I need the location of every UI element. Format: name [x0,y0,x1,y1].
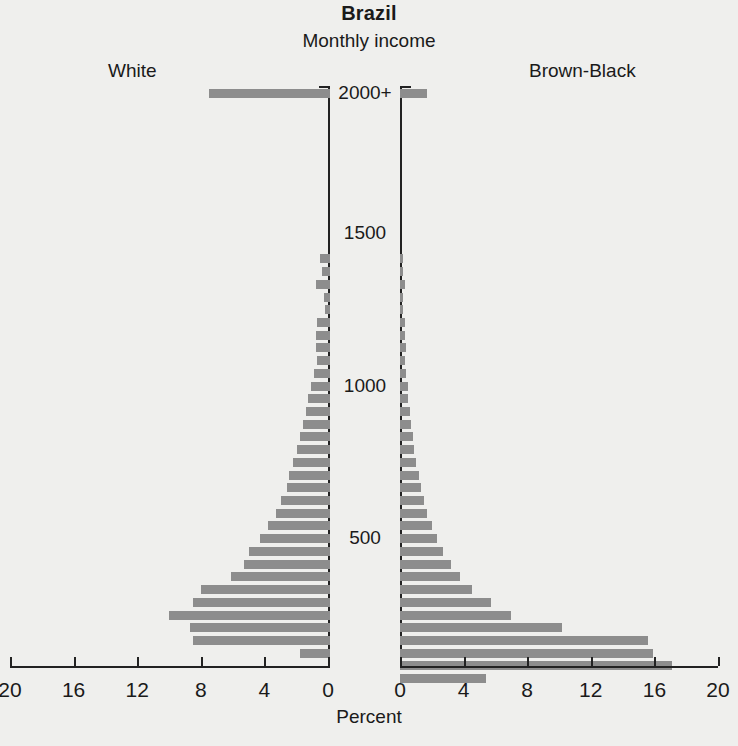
left-bar [249,547,330,556]
bar-row [400,534,718,543]
left-bar [289,471,330,480]
left-bar [303,420,330,429]
bar-row [10,611,330,620]
left-bar [314,369,330,378]
right-bar [400,420,411,429]
left-bar [316,343,330,352]
bar-row [10,382,330,391]
bar-row [10,636,330,645]
left-bar [231,572,330,581]
right-bar [400,254,403,263]
bar-row [400,280,718,289]
bar-row [400,254,718,263]
x-tick-mark [464,657,466,666]
bar-row [400,369,718,378]
left-bar [201,585,330,594]
bar-row [10,305,330,314]
right-x-tick-label: 20 [698,678,738,702]
left-bar [281,496,330,505]
x-tick-mark [718,657,720,666]
right-bar [400,267,403,276]
right-bar [400,585,472,594]
bar-row [400,318,718,327]
bar-row [400,89,718,98]
left-bar [244,560,330,569]
x-axis-title: Percent [0,706,738,728]
right-bar [400,471,419,480]
right-bar [400,343,406,352]
right-bar [400,483,421,492]
right-group-label: Brown-Black [529,60,636,82]
x-tick-mark [264,657,266,666]
income-tick-label: 2000+ [330,83,400,102]
bar-row [10,318,330,327]
left-bar [287,483,330,492]
bar-row [400,598,718,607]
bar-row [400,471,718,480]
right-bar [400,572,460,581]
left-bar [268,521,330,530]
left-bar [276,509,330,518]
bar-row [400,407,718,416]
bar-row [400,305,718,314]
bar-row [10,496,330,505]
bar-row [10,394,330,403]
bar-row [10,420,330,429]
left-panel-white [10,86,330,666]
right-x-tick-label: 8 [507,678,547,702]
x-tick-mark [74,657,76,666]
bar-row [400,547,718,556]
chart-subtitle: Monthly income [0,30,738,52]
left-x-tick-label: 20 [0,678,30,702]
right-horizontal-axis [400,666,718,668]
left-bar [260,534,330,543]
bar-row [10,572,330,581]
right-bar [400,382,408,391]
right-bar [400,305,403,314]
left-x-tick-label: 8 [181,678,221,702]
x-tick-mark [400,657,402,666]
bar-row [400,293,718,302]
right-bar [400,394,408,403]
bar-row [10,280,330,289]
bar-row [10,649,330,658]
bar-row [10,432,330,441]
bar-row [10,471,330,480]
left-x-tick-label: 0 [308,678,348,702]
x-tick-mark [201,657,203,666]
bar-row [10,598,330,607]
right-x-tick-label: 4 [444,678,484,702]
x-tick-mark [137,657,139,666]
bar-row [10,89,330,98]
left-bar [209,89,330,98]
income-scale: 2000+15001000500 [330,86,400,666]
right-bar [400,407,410,416]
right-panel-brown-black [400,86,718,666]
bar-row [10,623,330,632]
right-bar [400,496,424,505]
right-x-tick-label: 0 [380,678,420,702]
right-bar [400,598,491,607]
bar-row [10,458,330,467]
right-bar [400,331,405,340]
right-bar [400,458,416,467]
bar-row [400,356,718,365]
bar-row [10,369,330,378]
bar-row [400,623,718,632]
left-bar [190,623,330,632]
right-bar [400,509,427,518]
bar-row [10,254,330,263]
left-bar [322,267,330,276]
income-tick-label: 1000 [330,376,400,395]
right-bar-group [400,86,718,666]
right-bar [400,369,406,378]
bar-row [10,343,330,352]
right-bar [400,293,403,302]
bar-row [400,585,718,594]
left-bar-group [10,86,330,666]
bar-row [400,445,718,454]
left-bar [306,407,330,416]
bar-row [10,331,330,340]
left-bar [300,649,330,658]
left-group-label: White [108,60,157,82]
